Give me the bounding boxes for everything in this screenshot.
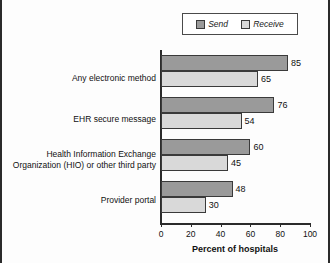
bar-send-hio-third-party	[161, 139, 250, 155]
bar-value-receive-ehr-secure-message: 54	[245, 113, 255, 129]
bar-send-ehr-secure-message	[161, 97, 274, 113]
bar-receive-ehr-secure-message	[161, 113, 242, 129]
category-label-line: Health Information Exchange	[0, 149, 156, 160]
x-tick-40	[221, 223, 222, 227]
bar-value-send-ehr-secure-message: 76	[278, 97, 288, 113]
chart-legend: Send Receive	[182, 13, 298, 35]
legend-item-receive: Receive	[241, 20, 284, 29]
bar-send-any-electronic-method	[161, 55, 288, 71]
plot-area: 0 20 40 60 80 100 Percent of hospitals 8…	[161, 50, 310, 223]
bar-receive-hio-third-party	[161, 155, 228, 171]
x-tick-label-0: 0	[159, 229, 164, 239]
bar-value-send-hio-third-party: 60	[254, 139, 264, 155]
x-tick-label-100: 100	[303, 229, 317, 239]
x-tick-label-20: 20	[186, 229, 195, 239]
legend-label-receive: Receive	[253, 20, 284, 29]
bar-value-receive-any-electronic-method: 65	[261, 71, 271, 87]
bar-value-receive-provider-portal: 30	[209, 197, 219, 213]
category-label-line: EHR secure message	[0, 114, 156, 125]
x-tick-label-80: 80	[275, 229, 284, 239]
category-label-hio-third-party: Health Information Exchange Organization…	[0, 149, 156, 170]
bar-value-send-provider-portal: 48	[236, 181, 246, 197]
category-label-line: Organization (HIO) or other third party	[0, 160, 156, 171]
receive-swatch-icon	[241, 20, 250, 29]
send-swatch-icon	[196, 20, 205, 29]
x-axis-line	[160, 223, 310, 225]
x-tick-20	[191, 223, 192, 227]
bar-send-provider-portal	[161, 181, 233, 197]
bar-value-send-any-electronic-method: 85	[291, 55, 301, 71]
x-axis-title: Percent of hospitals	[192, 244, 278, 254]
x-tick-100	[310, 223, 311, 227]
x-tick-0	[161, 223, 162, 227]
category-label-line: Provider portal	[0, 195, 156, 206]
bar-receive-any-electronic-method	[161, 71, 258, 87]
legend-item-send: Send	[196, 20, 228, 29]
x-tick-label-40: 40	[216, 229, 225, 239]
category-label-ehr-secure-message: EHR secure message	[0, 114, 156, 125]
x-tick-80	[280, 223, 281, 227]
category-label-any-electronic-method: Any electronic method	[0, 73, 156, 84]
legend-label-send: Send	[208, 20, 228, 29]
x-tick-60	[250, 223, 251, 227]
bar-receive-provider-portal	[161, 197, 206, 213]
bar-value-receive-hio-third-party: 45	[231, 155, 241, 171]
bar-chart-figure: Send Receive Any electronic method EHR s…	[0, 0, 330, 263]
x-tick-label-60: 60	[246, 229, 255, 239]
category-label-provider-portal: Provider portal	[0, 195, 156, 206]
category-label-line: Any electronic method	[0, 73, 156, 84]
